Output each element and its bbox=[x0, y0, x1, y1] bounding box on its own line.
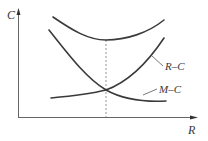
y-axis-arrow-icon bbox=[17, 8, 21, 15]
rc-leader-line bbox=[152, 56, 163, 66]
rc-curve bbox=[51, 38, 164, 98]
cost-diagram: C R R–C M–C bbox=[0, 0, 208, 141]
mc-curve-label: M–C bbox=[159, 84, 181, 95]
rc-curve-label: R–C bbox=[165, 61, 185, 72]
mc-leader-line bbox=[143, 89, 157, 95]
y-axis bbox=[17, 8, 21, 117]
x-axis-arrow-icon bbox=[190, 116, 198, 120]
x-axis bbox=[18, 116, 198, 120]
total-cost-curve bbox=[53, 17, 164, 40]
x-axis-label: R bbox=[188, 124, 195, 136]
y-axis-label: C bbox=[7, 9, 15, 21]
